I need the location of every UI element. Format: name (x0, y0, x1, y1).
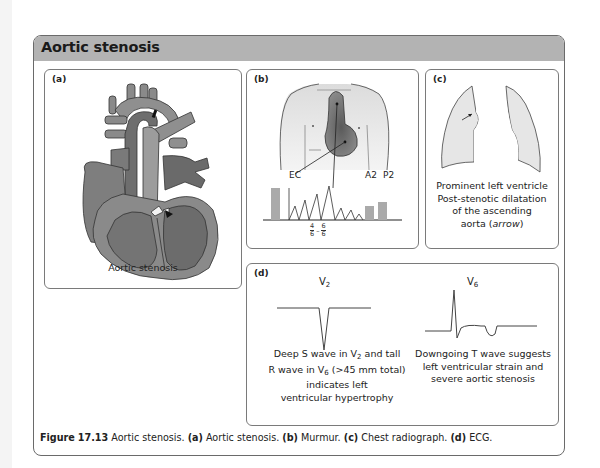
panel-d: (d) V2 V6 Deep S wave in V2 and tall R w… (246, 263, 559, 426)
page-margin-strip (0, 0, 12, 468)
v2-description: Deep S wave in V2 and tall R wave in V6 … (263, 348, 411, 404)
box-title: Aortic stenosis (41, 39, 160, 55)
panel-b: (b) (246, 69, 419, 249)
figure-number: 17.13 (78, 432, 108, 443)
panel-a: (a) (44, 69, 242, 289)
figure-title: Aortic stenosis. (111, 432, 184, 443)
caption-text-b: Murmur. (301, 432, 341, 443)
box-header: Aortic stenosis (34, 36, 564, 61)
v6-desc-line-1: Downgoing T wave suggests (413, 348, 553, 361)
p2-label: P2 (383, 170, 394, 180)
panel-c-caption: Prominent left ventricle Post-stenotic d… (426, 180, 558, 230)
v6-description: Downgoing T wave suggests left ventricul… (413, 348, 553, 386)
v2-desc-line-3: indicates left (263, 379, 411, 392)
caption-italic: arrow (492, 218, 519, 229)
caption-key-b: (b) (282, 432, 298, 443)
v2-desc-line-4: ventricular hypertrophy (263, 392, 411, 405)
grade-den-2: 6 (321, 231, 325, 238)
figure-box: Aortic stenosis (a) (33, 35, 565, 456)
torso-murmur-illustration-icon (247, 70, 418, 248)
v6-desc-line-2: left ventricular strain and (413, 361, 553, 374)
caption-text-d: ECG. (469, 432, 492, 443)
caption-key-d: (d) (450, 432, 466, 443)
caption-text-a: Aortic stenosis. (206, 432, 279, 443)
caption-key-a: (a) (188, 432, 203, 443)
heart-illustration-icon (45, 70, 241, 288)
figure-label: Figure (40, 432, 75, 443)
caption-suffix: ) (520, 218, 524, 229)
ec-label: EC (289, 170, 301, 180)
a2-label: A2 (365, 170, 377, 180)
panel-c-caption-line-4: aorta (arrow) (426, 218, 558, 231)
caption-text-c: Chest radiograph. (361, 432, 447, 443)
t: Deep S wave in V (274, 348, 357, 359)
v6-desc-line-3: severe aortic stenosis (413, 373, 553, 386)
panel-c-caption-line-3: of the ascending (426, 205, 558, 218)
t: (>45 mm total) (329, 364, 406, 375)
v2-desc-line-1: Deep S wave in V2 and tall (263, 348, 411, 364)
grade-den-1: 6 (310, 231, 314, 238)
grade-dash: – (316, 227, 319, 235)
caption-key-c: (c) (344, 432, 358, 443)
panel-c: (c) Prominent left ventricle Post-stenot… (425, 69, 559, 249)
panel-a-caption: Aortic stenosis (45, 262, 241, 275)
murmur-grade: 4 6 – 6 6 (310, 223, 326, 238)
caption-prefix: aorta ( (461, 218, 493, 229)
t: and tall (362, 348, 401, 359)
figure-caption: Figure 17.13 Aortic stenosis. (a) Aortic… (40, 432, 492, 443)
panel-c-caption-line-1: Prominent left ventricle (426, 180, 558, 193)
v2-desc-line-2: R wave in V6 (>45 mm total) (263, 364, 411, 380)
t: R wave in V (268, 364, 324, 375)
panel-c-caption-line-2: Post-stenotic dilatation (426, 193, 558, 206)
